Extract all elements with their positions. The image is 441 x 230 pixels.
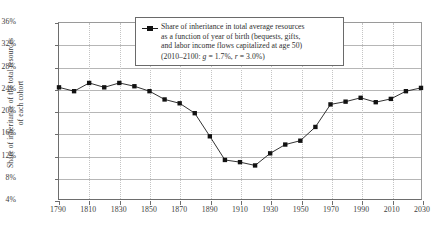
- data-point-marker: [162, 97, 166, 101]
- data-point-marker: [283, 142, 287, 146]
- legend-line4-mid: = 1.7%,: [206, 52, 234, 61]
- chart-container: Share of inheritance of the total resour…: [0, 0, 441, 230]
- data-point-marker: [238, 160, 242, 164]
- data-point-marker: [313, 125, 317, 129]
- series-line-inheritance-share: [59, 83, 421, 166]
- x-tickmark: [271, 201, 272, 205]
- y-tick-label: 12%: [0, 152, 16, 160]
- x-tickmark: [180, 201, 181, 205]
- data-point-marker: [253, 163, 257, 167]
- data-point-marker: [208, 134, 212, 138]
- x-tick-label: 2030: [402, 206, 441, 214]
- data-point-marker: [132, 84, 136, 88]
- data-point-marker: [102, 85, 106, 89]
- legend-text: Share of inheritance in total average re…: [161, 22, 305, 61]
- x-tickmark: [241, 201, 242, 205]
- y-tick-label: 36%: [0, 18, 16, 26]
- y-tick-label: 32%: [0, 40, 16, 48]
- data-point-marker: [223, 158, 227, 162]
- data-point-marker: [87, 81, 91, 85]
- x-tickmark: [150, 201, 151, 205]
- x-tickmark: [332, 201, 333, 205]
- data-point-marker: [404, 89, 408, 93]
- data-point-marker: [177, 101, 181, 105]
- data-point-marker: [117, 81, 121, 85]
- x-tickmark: [89, 201, 90, 205]
- legend-line-4: (2010–2100: g = 1.7%, r = 3.0%): [161, 51, 305, 62]
- data-point-marker: [268, 151, 272, 155]
- data-point-marker: [328, 102, 332, 106]
- y-axis-title-line1: Share of inheritance of the total resour…: [6, 38, 15, 168]
- data-point-marker: [389, 97, 393, 101]
- data-point-marker: [72, 89, 76, 93]
- legend-line4-pre: (2010–2100:: [161, 52, 203, 61]
- legend-line-3: and labor income flows capitalized at ag…: [161, 41, 305, 51]
- data-point-marker: [298, 139, 302, 143]
- y-tick-label: 24%: [0, 85, 16, 93]
- y-tick-label: 8%: [0, 174, 16, 182]
- data-point-marker: [57, 85, 61, 89]
- y-tick-label: 4%: [0, 196, 16, 204]
- x-tickmark: [362, 201, 363, 205]
- y-tick-label: 20%: [0, 107, 16, 115]
- y-axis-title-line2: of each cohort: [15, 38, 25, 168]
- legend-line-2: as a function of year of birth (bequests…: [161, 32, 305, 42]
- data-point-marker: [419, 86, 423, 90]
- y-tick-label: 16%: [0, 129, 16, 137]
- data-point-marker: [374, 100, 378, 104]
- x-tickmark: [423, 201, 424, 205]
- legend-marker-icon: [142, 24, 158, 33]
- legend-line-1: Share of inheritance in total average re…: [161, 22, 305, 32]
- y-tick-label: 28%: [0, 63, 16, 71]
- chart-legend: Share of inheritance in total average re…: [135, 17, 344, 66]
- x-tickmark: [393, 201, 394, 205]
- data-point-marker: [358, 96, 362, 100]
- x-tickmark: [211, 201, 212, 205]
- legend-line4-post: = 3.0%): [238, 52, 265, 61]
- data-point-marker: [147, 89, 151, 93]
- x-tickmark: [302, 201, 303, 205]
- data-point-marker: [193, 111, 197, 115]
- series-markers-inheritance-share: [57, 81, 423, 168]
- data-point-marker: [343, 99, 347, 103]
- x-tickmark: [120, 201, 121, 205]
- x-tickmark: [59, 201, 60, 205]
